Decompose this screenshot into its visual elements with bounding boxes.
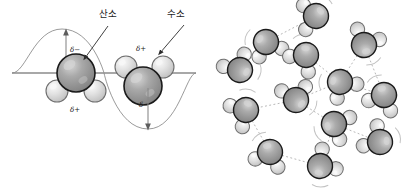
water-molecule	[313, 56, 367, 110]
hydrogen-bond-network-panel	[208, 0, 416, 191]
oxygen-atom	[124, 67, 162, 105]
oxygen-callout: 산소	[85, 8, 118, 58]
sine-wave	[12, 29, 196, 129]
delta-positive-label: δ+	[136, 45, 146, 53]
water-molecule	[354, 115, 406, 167]
water-molecule	[246, 129, 293, 175]
water-molecule	[340, 20, 389, 69]
oxygen-atom	[322, 64, 357, 99]
water-molecule	[293, 0, 337, 38]
charge-arc	[239, 83, 255, 99]
delta-positive-label: δ+	[70, 106, 80, 114]
hydrogen-callout: 수소	[160, 8, 186, 53]
water-molecule	[218, 83, 271, 136]
water-molecule	[273, 76, 320, 122]
oxygen-atom	[289, 38, 324, 73]
polarity-wave-panel: δ− δ+ δ+ δ−	[0, 0, 208, 191]
water-molecule-right: δ+ δ−	[115, 45, 174, 109]
oxygen-atom	[229, 93, 264, 128]
water-molecule	[310, 100, 359, 149]
oxygen-atom	[363, 125, 397, 159]
oxygen-label: 산소	[99, 8, 118, 19]
figure-canvas: δ− δ+ δ+ δ−	[0, 0, 416, 191]
oxygen-atom	[302, 148, 337, 183]
delta-negative-label: δ−	[70, 46, 80, 54]
oxygen-atom	[57, 54, 95, 92]
charge-arc	[251, 63, 267, 79]
water-molecule	[358, 71, 407, 120]
molecule-layer	[213, 0, 407, 191]
hydrogen-label: 수소	[167, 8, 186, 19]
